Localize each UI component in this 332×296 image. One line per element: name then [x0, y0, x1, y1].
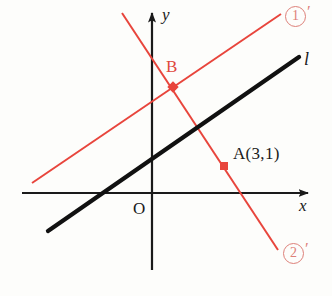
line-2prime: [122, 13, 278, 250]
y-axis-label: y: [162, 6, 170, 23]
point-B-label: B: [166, 58, 177, 75]
point-A-label: A(3,1): [233, 145, 280, 162]
line-2prime-tag-number: 2: [283, 243, 304, 264]
point-A-marker: [220, 162, 228, 170]
x-axis-label: x: [299, 197, 307, 214]
line-2prime-tag-prime: ′: [305, 240, 309, 257]
point-B-dot: [169, 83, 176, 90]
line-l-label: l: [304, 50, 309, 68]
origin-label: O: [133, 200, 145, 217]
line-2prime-tag: 2′: [283, 243, 309, 264]
line-1prime-tag: 1′: [285, 6, 311, 27]
line-1prime-tag-number: 1: [285, 6, 306, 27]
line-1prime-tag-prime: ′: [307, 3, 311, 20]
geometry-figure: y x O l B A(3,1) 1′ 2′: [0, 0, 332, 296]
